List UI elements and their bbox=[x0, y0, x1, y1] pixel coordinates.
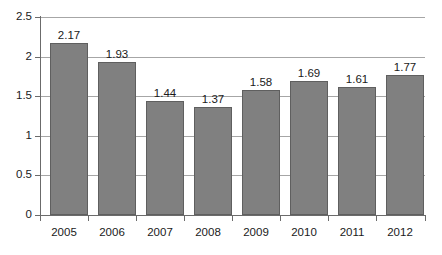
bar-2008 bbox=[194, 107, 232, 216]
y-tick-1.5 bbox=[35, 96, 41, 97]
bar-2007 bbox=[146, 101, 184, 215]
y-axis-label-1.5: 1.5 bbox=[0, 90, 32, 102]
bar-2005 bbox=[50, 43, 88, 215]
y-tick-2 bbox=[35, 57, 41, 58]
y-axis-label-1: 1 bbox=[0, 130, 32, 142]
y-axis-label-0: 0 bbox=[0, 209, 32, 221]
y-axis-label-2.5: 2.5 bbox=[0, 11, 32, 23]
x-axis-line bbox=[40, 215, 426, 216]
data-label-2007: 1.44 bbox=[140, 87, 190, 99]
data-label-2012: 1.77 bbox=[380, 61, 430, 73]
x-tick-5 bbox=[280, 216, 281, 221]
bar-2006 bbox=[98, 62, 136, 215]
y-tick-2.5 bbox=[35, 17, 41, 18]
data-label-2009: 1.58 bbox=[236, 76, 286, 88]
data-label-2005: 2.17 bbox=[44, 29, 94, 41]
data-label-2008: 1.37 bbox=[188, 93, 238, 105]
x-tick-8 bbox=[425, 216, 426, 221]
y-axis-label-2: 2 bbox=[0, 51, 32, 63]
bar-2009 bbox=[242, 90, 280, 215]
x-tick-0 bbox=[40, 216, 41, 221]
data-label-2010: 1.69 bbox=[284, 67, 334, 79]
bar-2010 bbox=[290, 81, 328, 215]
y-tick-1 bbox=[35, 136, 41, 137]
data-label-2011: 1.61 bbox=[332, 73, 382, 85]
x-axis-label-2012: 2012 bbox=[370, 226, 430, 238]
plot-area bbox=[40, 17, 425, 215]
x-tick-7 bbox=[376, 216, 377, 221]
x-tick-3 bbox=[184, 216, 185, 221]
x-tick-2 bbox=[136, 216, 137, 221]
x-tick-4 bbox=[232, 216, 233, 221]
y-axis-line bbox=[40, 16, 41, 216]
bar-2011 bbox=[338, 87, 376, 215]
gridline-2.5 bbox=[40, 17, 425, 18]
bar-2012 bbox=[386, 75, 424, 215]
x-tick-1 bbox=[88, 216, 89, 221]
bar-chart: 2.5 2 1.5 1 0.5 0 2005 2006 2007 2008 20… bbox=[0, 0, 442, 255]
data-label-2006: 1.93 bbox=[92, 48, 142, 60]
x-tick-6 bbox=[328, 216, 329, 221]
y-tick-0.5 bbox=[35, 175, 41, 176]
y-axis-label-0.5: 0.5 bbox=[0, 169, 32, 181]
